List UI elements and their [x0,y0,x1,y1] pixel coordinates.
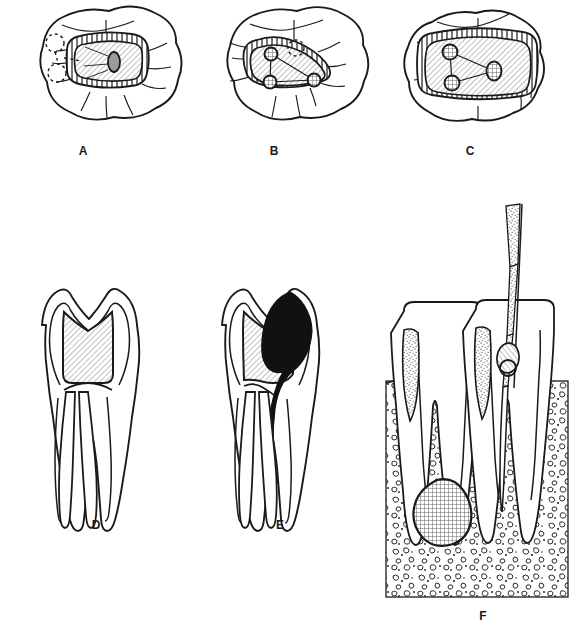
figure-caption [0,631,580,639]
panel-c-occlusal-rectangular-access [404,11,544,121]
panel-b-occlusal-triangular-access [227,7,368,119]
panel-label-e: E [276,518,284,532]
dental-figure: A B C D E F [0,0,580,639]
canal-orifice-b-3 [308,74,321,87]
panel-e-tooth-section-caries [222,289,319,531]
panel-label-b: B [270,144,279,158]
panel-d-tooth-section-access [42,289,139,531]
canal-orifice-c-2 [445,76,460,91]
canal-orifice-b-1 [265,48,278,61]
file-handle-f [506,204,520,267]
panel-f-file-in-canal-with-lesion [386,204,568,597]
access-cavity-floor-c [425,37,531,96]
panel-label-a: A [79,144,88,158]
canal-orifice-b-2 [264,76,277,89]
panel-label-d: D [92,518,101,532]
panel-a-occlusal-oval-access [40,6,181,119]
canal-orifice-a-1 [108,52,120,72]
panel-label-f: F [479,609,486,623]
figure-canvas: A B C D E F [0,0,580,639]
canal-orifice-c-1 [443,45,458,60]
panel-label-c: C [466,144,475,158]
canal-orifice-c-3 [487,62,502,81]
